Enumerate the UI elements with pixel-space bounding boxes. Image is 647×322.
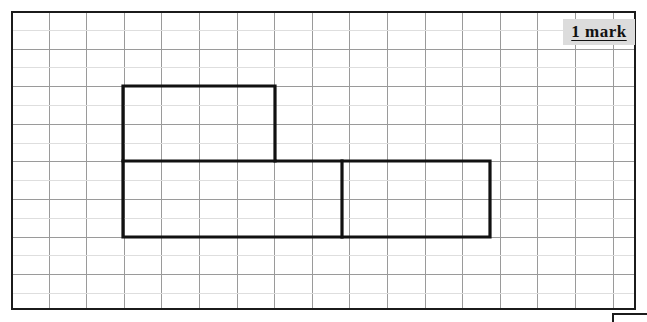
grid-line-vertical [199, 11, 200, 310]
grid-line-horizontal [11, 161, 636, 162]
grid-line-vertical [124, 11, 125, 310]
grid-line-horizontal [11, 274, 636, 275]
grid-line-horizontal-minor [11, 293, 636, 294]
grid-line-vertical [237, 11, 238, 310]
mark-label-text: 1 mark [571, 22, 626, 42]
grid-line-vertical [86, 11, 87, 310]
grid-line-horizontal-minor [11, 180, 636, 181]
grid-line-vertical [537, 11, 538, 310]
grid-line-vertical [312, 11, 313, 310]
mark-label: 1 mark [563, 19, 635, 45]
grid-line-horizontal-minor [11, 255, 636, 256]
grid-line-horizontal-minor [11, 143, 636, 144]
grid-line-horizontal [11, 199, 636, 200]
grid-line-horizontal [11, 237, 636, 238]
grid-line-horizontal-minor [11, 30, 636, 31]
squared-grid [11, 11, 636, 310]
grid-line-vertical [462, 11, 463, 310]
grid-lines [11, 11, 636, 310]
grid-line-vertical [49, 11, 50, 310]
answer-box-corner [612, 313, 647, 322]
question-page: 1 mark [0, 0, 647, 322]
grid-line-vertical [274, 11, 275, 310]
grid-line-horizontal [11, 86, 636, 87]
grid-line-horizontal-minor [11, 67, 636, 68]
grid-line-vertical [161, 11, 162, 310]
grid-line-vertical [349, 11, 350, 310]
grid-line-vertical [387, 11, 388, 310]
grid-line-vertical [613, 11, 614, 310]
grid-line-vertical [500, 11, 501, 310]
grid-line-horizontal [11, 124, 636, 125]
grid-line-vertical [575, 11, 576, 310]
grid-line-horizontal [11, 49, 636, 50]
grid-line-horizontal-minor [11, 218, 636, 219]
grid-line-vertical [425, 11, 426, 310]
grid-line-horizontal-minor [11, 105, 636, 106]
